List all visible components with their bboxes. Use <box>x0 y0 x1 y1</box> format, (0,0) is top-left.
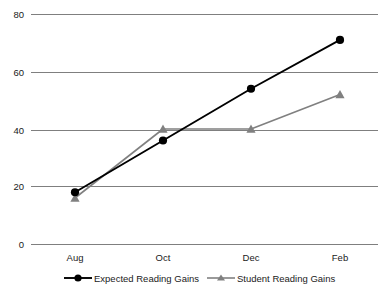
legend-label-expected: Expected Reading Gains <box>94 273 199 284</box>
legend-label-student: Student Reading Gains <box>237 273 335 284</box>
chart-canvas: 80 60 40 20 0 Aug Oct Dec Feb <box>0 0 389 295</box>
x-tick-label-dec: Dec <box>243 252 260 263</box>
y-tick-label-40: 40 <box>13 125 24 136</box>
x-tick-label-feb: Feb <box>332 252 348 263</box>
x-tick-label-aug: Aug <box>67 252 84 263</box>
x-tick-label-oct: Oct <box>156 252 171 263</box>
line-chart-figure: 80 60 40 20 0 Aug Oct Dec Feb <box>0 0 389 295</box>
y-tick-label-0: 0 <box>19 239 24 250</box>
expected-data-point-aug <box>71 188 79 196</box>
expected-data-point-feb <box>336 36 344 44</box>
y-tick-label-80: 80 <box>13 9 24 20</box>
expected-data-point-dec <box>247 85 255 93</box>
circle-marker-icon <box>74 274 81 281</box>
y-tick-label-20: 20 <box>13 181 24 192</box>
expected-data-point-oct <box>159 136 167 144</box>
y-tick-label-60: 60 <box>13 67 24 78</box>
